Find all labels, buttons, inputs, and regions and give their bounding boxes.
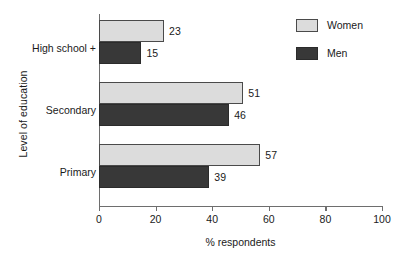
bar-value-women-primary: 57 xyxy=(265,149,277,161)
bar-men-high-school xyxy=(99,42,141,64)
x-tick-100 xyxy=(382,206,383,211)
bar-value-women-high-school: 23 xyxy=(169,25,181,37)
bar-value-men-primary: 39 xyxy=(214,171,226,183)
bar-women-secondary xyxy=(99,82,243,104)
y-axis-tick-labels: High school + Secondary Primary xyxy=(8,0,96,256)
x-axis-line xyxy=(99,206,382,207)
y-tick-label-secondary: Secondary xyxy=(10,104,96,116)
x-tick-label-100: 100 xyxy=(373,213,391,225)
x-tick-label-40: 40 xyxy=(206,213,218,225)
bar-chart: Level of education High school + Seconda… xyxy=(0,0,401,256)
legend-item-women: Women xyxy=(296,16,396,34)
bar-men-primary xyxy=(99,166,209,188)
y-tick-label-primary: Primary xyxy=(10,166,96,178)
x-tick-40 xyxy=(212,206,213,211)
bar-value-women-secondary: 51 xyxy=(248,87,260,99)
legend-label-women: Women xyxy=(327,19,363,31)
legend: Women Men xyxy=(296,16,396,72)
y-tick-label-high-school: High school + xyxy=(10,42,96,54)
x-tick-0 xyxy=(99,206,100,211)
legend-swatch-women-icon xyxy=(296,19,318,32)
legend-item-men: Men xyxy=(296,44,396,62)
bar-men-secondary xyxy=(99,104,229,126)
x-tick-label-20: 20 xyxy=(150,213,162,225)
bar-value-men-secondary: 46 xyxy=(234,109,246,121)
x-tick-80 xyxy=(325,206,326,211)
x-tick-20 xyxy=(156,206,157,211)
bar-women-high-school xyxy=(99,20,164,42)
legend-swatch-men-icon xyxy=(296,47,318,60)
bar-value-men-high-school: 15 xyxy=(146,47,158,59)
x-tick-label-80: 80 xyxy=(320,213,332,225)
bar-women-primary xyxy=(99,144,260,166)
legend-label-men: Men xyxy=(327,47,347,59)
x-tick-60 xyxy=(269,206,270,211)
x-axis-title: % respondents xyxy=(99,236,382,248)
x-tick-label-60: 60 xyxy=(263,213,275,225)
x-tick-label-0: 0 xyxy=(96,213,102,225)
